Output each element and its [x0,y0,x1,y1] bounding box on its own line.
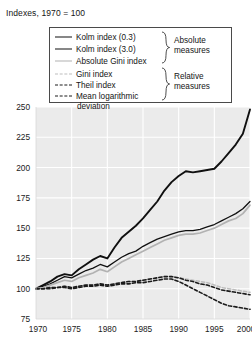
legend-group-label-line2: measures [174,82,210,91]
y-axis-tick-label: 200 [16,163,30,173]
y-axis-tick-label: 225 [16,132,30,142]
legend-group-label-line1: Relative [174,72,210,81]
legend-entries: Kolm index (0.3)Kolm index (3.0)Absolute… [50,28,231,102]
legend-group-label-line1: Absolute [174,36,210,45]
x-axis-tick-label: 1970 [29,324,48,334]
x-axis-tick-label: 1985 [134,324,153,334]
legend-group-label-line2: measures [174,46,210,55]
x-axis: 1970197519801985199019952000 [29,324,252,334]
x-axis-tick-label: 1995 [205,324,224,334]
x-axis-tick-label: 2000 [237,324,252,334]
y-axis-tick-label: 100 [16,284,30,294]
chart-legend: Kolm index (0.3)Kolm index (3.0)Absolute… [49,27,232,103]
x-axis-tick-label: 1975 [62,324,81,334]
x-axis-tick-label: 1980 [98,324,117,334]
y-axis-tick-label: 250 [16,102,30,112]
x-axis-tick-label: 1990 [169,324,188,334]
y-axis-tick-label: 75 [21,314,31,324]
legend-group-label: Absolutemeasures [174,36,210,55]
y-axis: 75100125150175200225250 [16,102,30,324]
legend-group-label: Relativemeasures [174,72,210,91]
y-axis-tick-label: 175 [16,193,30,203]
y-axis-tick-label: 150 [16,223,30,233]
y-axis-tick-label: 125 [16,253,30,263]
